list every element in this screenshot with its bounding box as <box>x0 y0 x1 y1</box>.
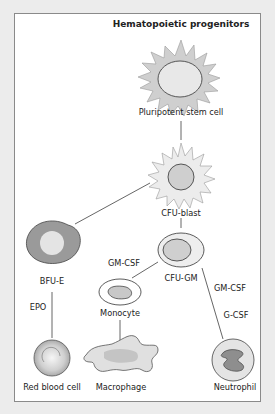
factor-gm-csf-neutrophil: GM-CSF <box>214 283 246 293</box>
diagram-title: Hematopoietic progenitors <box>113 19 250 29</box>
macrophage-icon <box>84 336 158 372</box>
label-macrophage: Macrophage <box>96 382 146 392</box>
monocyte-icon <box>99 279 141 305</box>
label-neutrophil: Neutrophil <box>214 382 257 392</box>
factor-gm-csf-monocyte: GM-CSF <box>108 258 140 268</box>
label-stem-cell: Pluripotent stem cell <box>139 107 224 117</box>
line-cfugm-to-neutrophil <box>202 268 223 339</box>
red-blood-cell-icon <box>34 340 70 376</box>
label-cfu-gm: CFU-GM <box>164 273 197 283</box>
stem-cell-icon <box>138 40 220 116</box>
label-red-blood-cell: Red blood cell <box>23 382 81 392</box>
cfu-gm-icon <box>158 233 204 267</box>
neutrophil-icon <box>212 339 254 381</box>
label-bfue: BFU-E <box>40 276 64 286</box>
cfu-blast-icon <box>148 143 215 209</box>
line-blast-to-bfue <box>75 183 150 224</box>
hematopoiesis-diagram: Hematopoietic progenitors Pluripotent st… <box>0 0 275 414</box>
factor-g-csf: G-CSF <box>224 310 249 320</box>
factor-epo: EPO <box>30 302 47 312</box>
label-monocyte: Monocyte <box>100 308 140 318</box>
bfue-icon <box>26 221 80 264</box>
label-cfu-blast: CFU-blast <box>161 208 201 218</box>
